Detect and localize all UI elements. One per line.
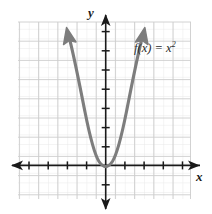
x-axis-label: x xyxy=(196,170,203,183)
coordinate-plane-graph xyxy=(0,0,212,214)
parabola-figure: y x f(x) = x2 xyxy=(0,0,212,214)
y-axis-label: y xyxy=(88,6,94,19)
function-equation-base: f(x) = x xyxy=(134,41,172,55)
function-equation-label: f(x) = x2 xyxy=(134,42,176,55)
function-equation-exponent: 2 xyxy=(172,39,176,49)
